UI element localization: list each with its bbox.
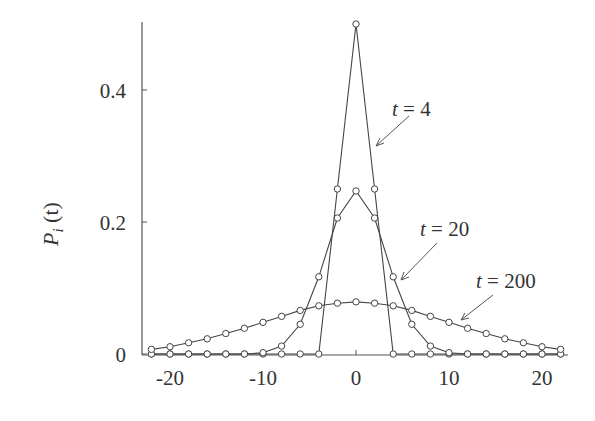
data-point-marker <box>371 300 377 306</box>
data-point-marker <box>260 349 266 355</box>
data-point-marker <box>520 340 526 346</box>
data-point-marker <box>409 351 415 357</box>
data-point-marker <box>316 274 322 280</box>
y-tick-label: 0.2 <box>100 211 126 235</box>
data-point-marker <box>148 346 154 352</box>
data-point-marker <box>278 351 284 357</box>
data-point-marker <box>427 351 433 357</box>
series-t200 <box>148 299 564 353</box>
data-point-marker <box>371 215 377 221</box>
data-point-marker <box>483 330 489 336</box>
data-point-marker <box>334 186 340 192</box>
data-point-marker <box>204 336 210 342</box>
data-point-marker <box>334 215 340 221</box>
data-point-marker <box>223 330 229 336</box>
data-point-marker <box>278 343 284 349</box>
data-point-marker <box>297 351 303 357</box>
data-point-marker <box>539 351 545 357</box>
data-point-marker <box>409 321 415 327</box>
data-point-marker <box>446 349 452 355</box>
data-point-marker <box>483 351 489 357</box>
data-point-marker <box>204 351 210 357</box>
data-point-marker <box>427 343 433 349</box>
y-tick-label: 0.4 <box>100 79 127 103</box>
data-point-marker <box>502 351 508 357</box>
x-tick-label: 10 <box>439 366 460 390</box>
data-point-marker <box>371 186 377 192</box>
series-line <box>151 302 560 350</box>
data-point-marker <box>427 313 433 319</box>
data-point-marker <box>316 303 322 309</box>
y-axis-label: Pi (t) <box>38 202 66 247</box>
arrow-t20 <box>401 243 437 280</box>
data-point-marker <box>390 303 396 309</box>
data-point-marker <box>390 351 396 357</box>
data-point-marker <box>390 274 396 280</box>
x-tick-label: -10 <box>249 366 277 390</box>
annotation-t200: t = 200 <box>476 269 536 293</box>
data-point-marker <box>297 321 303 327</box>
data-point-marker <box>185 340 191 346</box>
chart: -20-100102000.20.4 Pi (t) t = 4 t = 20 t… <box>0 0 595 421</box>
ticks <box>142 90 542 355</box>
data-point-marker <box>260 319 266 325</box>
data-point-marker <box>353 21 359 27</box>
data-point-marker <box>520 351 526 357</box>
x-tick-label: 0 <box>351 366 362 390</box>
annotation-t4: t = 4 <box>392 97 431 121</box>
data-point-marker <box>185 351 191 357</box>
series <box>148 21 564 357</box>
data-point-marker <box>409 307 415 313</box>
data-point-marker <box>446 319 452 325</box>
y-tick-label: 0 <box>116 343 127 367</box>
data-point-marker <box>278 313 284 319</box>
arrow-t200 <box>461 295 493 320</box>
data-point-marker <box>464 351 470 357</box>
data-point-marker <box>167 351 173 357</box>
data-point-marker <box>464 325 470 331</box>
x-tick-label: -20 <box>156 366 184 390</box>
data-point-marker <box>502 336 508 342</box>
data-point-marker <box>167 344 173 350</box>
data-point-marker <box>241 325 247 331</box>
data-point-marker <box>316 351 322 357</box>
data-point-marker <box>353 299 359 305</box>
annotations: t = 4 t = 20 t = 200 <box>376 97 536 320</box>
tick-labels: -20-100102000.20.4 <box>100 79 553 390</box>
data-point-marker <box>297 307 303 313</box>
data-point-marker <box>557 346 563 352</box>
data-point-marker <box>353 188 359 194</box>
annotation-t20: t = 20 <box>420 217 469 241</box>
data-point-marker <box>334 300 340 306</box>
x-tick-label: 20 <box>532 366 553 390</box>
data-point-marker <box>241 351 247 357</box>
data-point-marker <box>223 351 229 357</box>
data-point-marker <box>539 344 545 350</box>
